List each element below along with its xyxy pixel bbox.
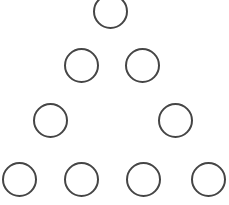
circle-row-4-item-7 <box>126 162 161 197</box>
circle-row-1-item-0 <box>93 0 128 29</box>
circle-row-2-item-2 <box>125 48 160 83</box>
circle-row-4-item-8 <box>191 162 226 197</box>
circle-row-4-item-6 <box>64 162 99 197</box>
circle-row-3-item-3 <box>33 103 68 138</box>
circle-row-4-item-5 <box>2 162 37 197</box>
circle-row-3-item-4 <box>158 103 193 138</box>
circle-row-2-item-1 <box>64 48 99 83</box>
circle-triangle-diagram <box>0 0 229 205</box>
